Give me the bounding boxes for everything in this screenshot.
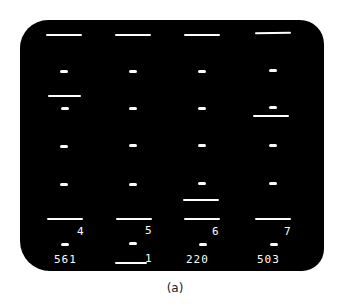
count-underline-col2 <box>115 262 147 264</box>
column-index-label: 5 <box>145 225 153 236</box>
dash-r3-col3 <box>198 107 206 110</box>
dash-r2-col4 <box>269 69 277 72</box>
column-index-label: 6 <box>212 226 220 237</box>
top-bar-col4 <box>255 32 291 35</box>
top-bar-col2 <box>115 34 151 36</box>
top-bar-col1 <box>46 34 82 36</box>
dash-bottom-col2 <box>129 242 137 245</box>
dash-bottom-col4 <box>270 243 278 246</box>
dash-r4-col1 <box>60 145 68 148</box>
dash-bottom-col1 <box>61 243 69 246</box>
dash-r5-col4 <box>269 182 277 185</box>
figure-caption: (a) <box>0 281 350 295</box>
dash-r3-col1 <box>61 107 69 110</box>
marker-bar-col3 <box>183 199 219 201</box>
top-bar-col3 <box>184 34 220 36</box>
dash-r2-col1 <box>60 70 68 73</box>
column-count-value: 503 <box>257 254 280 265</box>
bottom-bar-col4 <box>255 218 291 220</box>
dash-r4-col3 <box>198 144 206 147</box>
column-count-value: 220 <box>186 254 209 265</box>
dash-r5-col1 <box>60 183 68 186</box>
marker-bar-col4 <box>253 115 289 117</box>
column-count-value: 561 <box>54 254 77 265</box>
marker-bar-col1 <box>48 95 81 97</box>
bottom-bar-col3 <box>184 218 220 220</box>
dash-bottom-col3 <box>199 243 207 246</box>
column-index-label: 7 <box>284 226 292 237</box>
dash-r5-col2 <box>129 183 137 186</box>
dash-r2-col3 <box>198 70 206 73</box>
bottom-bar-col1 <box>47 218 83 220</box>
column-index-label: 4 <box>77 226 85 237</box>
dash-r4-col2 <box>129 144 137 147</box>
crt-display-screen: 4 5 6 7 561 1 220 503 <box>20 20 324 271</box>
column-count-value: 1 <box>145 253 153 264</box>
dash-r5-col3 <box>198 182 206 185</box>
dash-r3-col4 <box>269 106 277 109</box>
bottom-bar-col2 <box>116 218 152 220</box>
dash-r2-col2 <box>129 70 137 73</box>
dash-r4-col4 <box>269 144 277 147</box>
dash-r3-col2 <box>129 107 137 110</box>
